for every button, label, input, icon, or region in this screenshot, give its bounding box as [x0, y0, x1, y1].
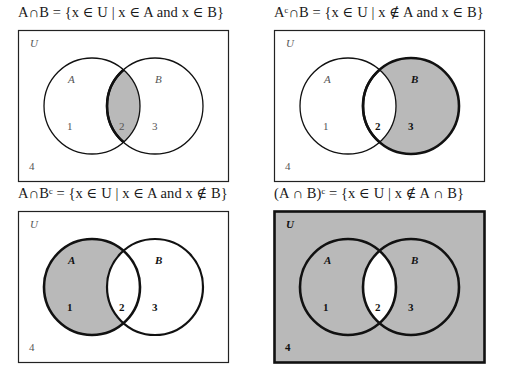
universe-label: U [30, 37, 39, 49]
region-label-4: 4 [285, 341, 291, 353]
caption: (A ∩ B)ᶜ = {x ∈ U | x ∉ A ∩ B} [274, 185, 464, 202]
panel-a-intersect-b-complement: A∩Bᶜ = {x ∈ U | x ∈ A and x ∉ B} U A B 1… [0, 181, 256, 363]
set-label-b: B [155, 73, 162, 85]
region-label-1: 1 [67, 301, 73, 313]
region-label-2: 2 [119, 301, 125, 313]
set-label-a: A [67, 73, 75, 85]
set-label-a: A [323, 254, 331, 266]
set-label-a: A [67, 254, 75, 266]
venn-diagram: U A B 1 2 3 4 [274, 211, 486, 364]
panel-a-intersect-b: A∩B = {x ∈ U | x ∈ A and x ∈ B} U A B 1 … [0, 0, 256, 182]
region-label-4: 4 [29, 341, 35, 353]
region-label-4: 4 [29, 160, 35, 172]
region-label-2: 2 [375, 120, 381, 132]
region-label-2: 2 [375, 301, 381, 313]
region-label-4: 4 [285, 160, 291, 172]
universe-label: U [286, 37, 295, 49]
panel-a-intersect-b-all-complement: (A ∩ B)ᶜ = {x ∈ U | x ∉ A ∩ B} U A B 1 2… [256, 181, 512, 363]
venn-diagram: U A B 1 2 3 4 [274, 30, 486, 183]
set-label-a: A [323, 73, 331, 85]
region-label-3: 3 [152, 301, 158, 313]
region-label-1: 1 [323, 301, 329, 313]
universe-label: U [30, 218, 39, 230]
universe-label: U [286, 218, 295, 230]
venn-diagram: U A B 1 2 3 4 [18, 211, 230, 364]
panel-a-complement-intersect-b: Aᶜ∩B = {x ∈ U | x ∉ A and x ∈ B} U A B 1… [256, 0, 512, 182]
set-label-b: B [410, 254, 418, 266]
venn-diagram: U A B 1 2 3 4 [18, 30, 230, 183]
region-label-3: 3 [152, 120, 158, 132]
set-label-b: B [154, 254, 162, 266]
region-label-3: 3 [408, 301, 414, 313]
caption: A∩Bᶜ = {x ∈ U | x ∈ A and x ∉ B} [18, 185, 228, 202]
region-label-1: 1 [67, 120, 73, 132]
region-label-2: 2 [119, 120, 125, 132]
caption: Aᶜ∩B = {x ∈ U | x ∉ A and x ∈ B} [274, 4, 484, 21]
shaded-region-1 [18, 211, 230, 364]
shaded-region-3 [274, 30, 486, 183]
region-label-3: 3 [408, 120, 414, 132]
caption: A∩B = {x ∈ U | x ∈ A and x ∈ B} [18, 4, 224, 21]
region-label-1: 1 [323, 120, 329, 132]
set-label-b: B [410, 73, 418, 85]
